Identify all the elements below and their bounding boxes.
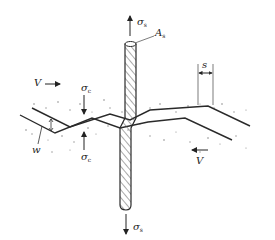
slip-dimension bbox=[198, 64, 213, 105]
label-sigma-c-top: σc bbox=[81, 83, 91, 94]
label-V-left: V bbox=[34, 78, 41, 88]
area-leader bbox=[135, 36, 154, 43]
label-V-right: V bbox=[196, 156, 203, 166]
label-w: w bbox=[32, 145, 41, 155]
label-sigma-c-bottom: σc bbox=[81, 152, 91, 163]
shear-friction-diagram bbox=[0, 0, 275, 240]
label-sigma-s-bottom: σs bbox=[133, 222, 143, 233]
label-area: As bbox=[155, 28, 165, 39]
label-s: s bbox=[202, 60, 207, 70]
label-sigma-s-top: σs bbox=[137, 17, 147, 28]
